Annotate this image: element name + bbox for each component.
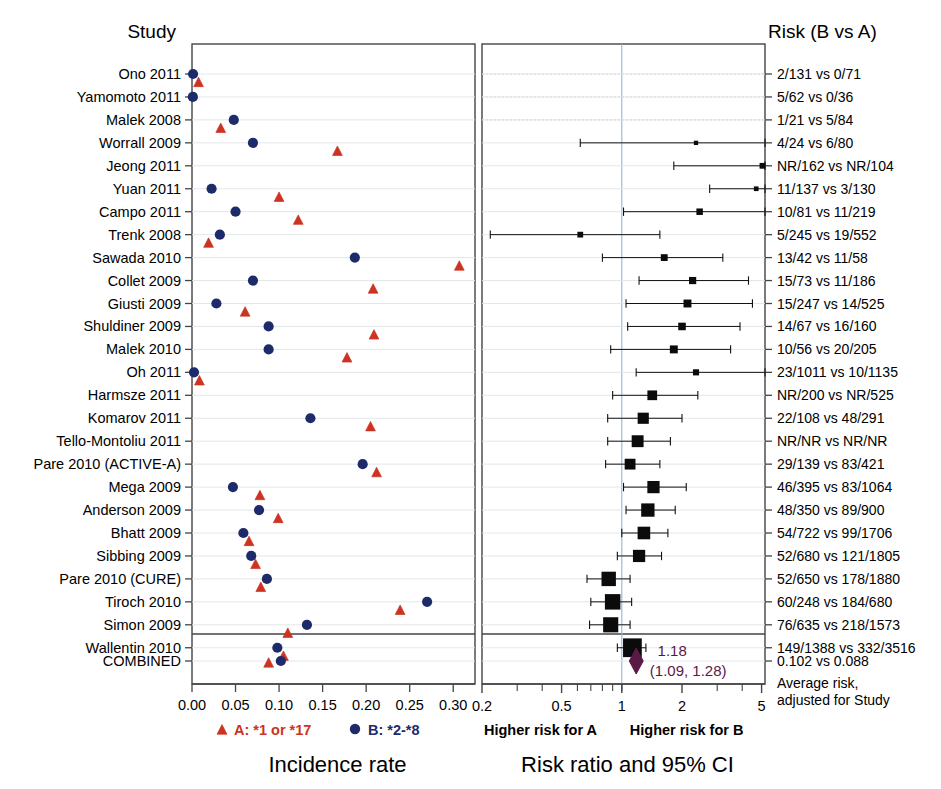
effect-box: [641, 503, 654, 516]
study-label: Mega 2009: [108, 479, 181, 495]
incidence-marker-a: [256, 582, 266, 591]
combined-incidence-marker-b: [276, 656, 286, 666]
incidence-marker-b: [211, 298, 221, 308]
incidence-marker-a: [333, 146, 343, 155]
risk-value: 5/62 vs 0/36: [777, 89, 853, 105]
left-axis-title: Incidence rate: [268, 752, 406, 777]
risk-value: 10/56 vs 20/205: [777, 341, 877, 357]
incidence-marker-b: [254, 505, 264, 515]
right-axis-tick-label: 1: [618, 698, 626, 714]
risk-value: 14/67 vs 16/160: [777, 318, 877, 334]
combined-incidence-marker-a: [264, 658, 274, 667]
incidence-marker-b: [188, 92, 198, 102]
study-label: Collet 2009: [108, 273, 181, 289]
risk-value: 2/131 vs 0/71: [777, 66, 861, 82]
risk-value: 10/81 vs 11/219: [777, 204, 876, 220]
effect-box: [684, 300, 692, 308]
incidence-marker-b: [262, 574, 272, 584]
incidence-marker-b: [264, 321, 274, 331]
legend-marker-a-triangle-icon: [217, 725, 227, 735]
incidence-marker-b: [229, 115, 239, 125]
effect-box: [638, 413, 649, 424]
study-label: Bhatt 2009: [111, 525, 181, 541]
incidence-marker-a: [204, 238, 214, 247]
incidence-marker-a: [216, 123, 226, 132]
higher-risk-b-note: Higher risk for B: [630, 722, 744, 738]
study-label: Pare 2010 (CURE): [59, 571, 181, 587]
incidence-marker-b: [206, 184, 216, 194]
risk-value: 1/21 vs 5/84: [777, 112, 853, 128]
combined-risk-value: 0.102 vs 0.088: [777, 653, 869, 669]
risk-value: 54/722 vs 99/1706: [777, 525, 892, 541]
study-labels: Ono 2011Yamomoto 2011Malek 2008Worrall 2…: [34, 66, 181, 669]
incidence-marker-b: [272, 643, 282, 653]
forest-markers: 1.18(1.09, 1.28): [482, 74, 765, 679]
incidence-marker-a: [274, 192, 284, 201]
legend-label-a: A: *1 or *17: [234, 722, 311, 738]
incidence-marker-a: [283, 628, 293, 637]
effect-box: [603, 617, 618, 632]
incidence-marker-a: [368, 284, 378, 293]
left-axis-tick-label: 0.10: [265, 697, 293, 713]
risk-column-header: Risk (B vs A): [768, 21, 877, 42]
study-label: Jeong 2011: [106, 158, 181, 174]
effect-box: [760, 163, 766, 169]
risk-values: 2/131 vs 0/715/62 vs 0/361/21 vs 5/844/2…: [777, 66, 916, 708]
study-label: Tello-Montoliu 2011: [56, 433, 181, 449]
right-axis-tick-label: 5: [758, 698, 766, 714]
incidence-marker-a: [454, 261, 464, 270]
risk-value: 52/680 vs 121/1805: [777, 548, 900, 564]
combined-footnote-line1: Average risk,: [777, 675, 858, 691]
effect-box: [605, 594, 620, 609]
higher-risk-a-note: Higher risk for A: [484, 722, 598, 738]
incidence-marker-a: [293, 215, 303, 224]
left-axis-tick-label: 0.15: [308, 697, 336, 713]
incidence-marker-a: [342, 353, 352, 362]
incidence-marker-a: [244, 536, 254, 545]
study-label: Tiroch 2010: [105, 594, 181, 610]
legend-label-b: B: *2-*8: [368, 722, 420, 738]
risk-value: 29/139 vs 83/421: [777, 456, 885, 472]
study-label: Yuan 2011: [113, 181, 181, 197]
incidence-marker-a: [240, 307, 250, 316]
incidence-marker-b: [248, 275, 258, 285]
incidence-marker-a: [369, 330, 379, 339]
risk-value: 52/650 vs 178/1880: [777, 571, 900, 587]
incidence-marker-b: [350, 253, 360, 263]
effect-box: [694, 141, 698, 145]
left-axis-tick-label: 0.05: [221, 697, 249, 713]
study-label: Worrall 2009: [99, 135, 181, 151]
panel-frames: [192, 44, 765, 684]
left-panel-frame: [192, 44, 475, 684]
incidence-marker-b: [230, 207, 240, 217]
combined-ci-text: (1.09, 1.28): [650, 662, 727, 679]
study-label: Komarov 2011: [88, 410, 181, 426]
incidence-marker-b: [246, 551, 256, 561]
effect-box: [647, 390, 657, 400]
effect-box: [625, 459, 636, 470]
incidence-marker-a: [372, 467, 382, 476]
effect-box: [633, 550, 645, 562]
risk-value: 22/108 vs 48/291: [777, 410, 885, 426]
incidence-marker-b: [264, 344, 274, 354]
left-axis-tick-label: 0.20: [352, 697, 380, 713]
study-label: Sibbing 2009: [96, 548, 181, 564]
incidence-marker-a: [366, 421, 376, 430]
column-headers: StudyRisk (B vs A): [127, 21, 876, 42]
right-axis-tick-label: 0.5: [552, 698, 572, 714]
study-label: Giusti 2009: [108, 296, 181, 312]
risk-value: 11/137 vs 3/130: [777, 181, 876, 197]
left-axis-tick-label: 0.30: [439, 697, 467, 713]
effect-box: [696, 208, 702, 214]
risk-value: 13/42 vs 11/58: [777, 250, 868, 266]
incidence-marker-b: [248, 138, 258, 148]
effect-box: [670, 345, 678, 353]
incidence-marker-b: [188, 69, 198, 79]
study-label: Yamomoto 2011: [77, 89, 181, 105]
incidence-marker-b: [228, 482, 238, 492]
combined-label: COMBINED: [103, 653, 181, 669]
risk-value: 4/24 vs 6/80: [777, 135, 853, 151]
effect-box: [693, 369, 699, 375]
effect-box: [689, 277, 696, 284]
risk-value: NR/200 vs NR/525: [777, 387, 894, 403]
